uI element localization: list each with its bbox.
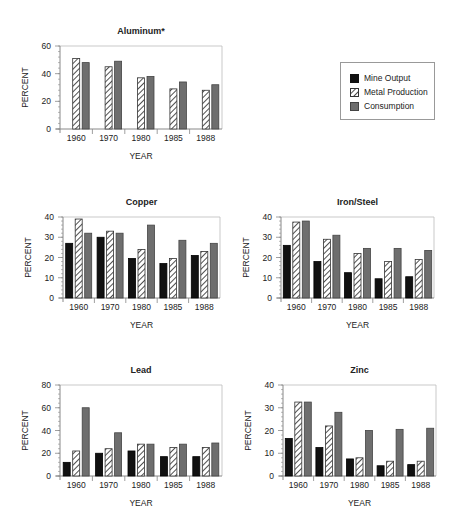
bar-metal-production <box>325 426 332 476</box>
y-tick-label: 10 <box>265 448 275 458</box>
bar-mine-output <box>285 438 292 476</box>
x-tick-label: 1988 <box>411 480 430 490</box>
y-axis-label: PERCENT <box>243 410 253 451</box>
bar-metal-production <box>295 402 302 476</box>
bar-consumption <box>335 412 342 476</box>
chart-legend: Mine Output Metal Production Consumption <box>340 62 435 120</box>
legend-label: Mine Output <box>364 73 410 83</box>
bar-mine-output <box>377 466 384 476</box>
legend-item-consumption: Consumption <box>350 101 414 111</box>
legend-item-metal-production: Metal Production <box>350 87 428 97</box>
y-tick-label: 40 <box>265 380 275 390</box>
bar-metal-production <box>387 461 394 476</box>
x-tick-label: 1980 <box>350 480 369 490</box>
legend-label: Metal Production <box>364 87 428 97</box>
legend-label: Consumption <box>364 101 414 111</box>
y-tick-label: 0 <box>269 471 274 481</box>
legend-swatch-solid-gray-icon <box>350 102 359 111</box>
chart-title: Zinc <box>350 365 369 375</box>
bar-metal-production <box>417 461 424 476</box>
bar-consumption <box>304 402 311 476</box>
x-tick-label: 1970 <box>319 480 338 490</box>
bar-consumption <box>427 428 434 476</box>
x-tick-label: 1960 <box>289 480 308 490</box>
y-tick-label: 20 <box>265 426 275 436</box>
legend-item-mine-output: Mine Output <box>350 73 410 83</box>
x-tick-label: 1985 <box>381 480 400 490</box>
bar-mine-output <box>347 459 354 476</box>
bar-consumption <box>396 429 403 476</box>
x-axis-label: YEAR <box>348 498 371 508</box>
legend-swatch-solid-black-icon <box>350 74 359 83</box>
bar-mine-output <box>408 465 415 476</box>
bar-consumption <box>366 431 373 477</box>
y-tick-label: 30 <box>265 403 275 413</box>
bar-metal-production <box>356 458 363 476</box>
bar-mine-output <box>316 448 323 476</box>
legend-swatch-hatched-icon <box>350 88 359 97</box>
